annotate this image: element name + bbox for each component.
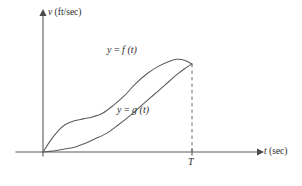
curve-f-label-equals: = [114,44,120,55]
curve-f-label-y: y [107,44,111,55]
curve-g-label-argument: (t) [140,104,149,115]
curve-g-label-equals: = [124,104,130,115]
curve-g-label: y = g (t) [117,105,149,115]
curve-g-label-function: g [132,104,137,115]
curve-f-label: y = f (t) [107,45,137,55]
figure-canvas [0,0,302,186]
curve-f-label-argument: (t) [127,44,136,55]
up-arrow-icon [39,9,46,16]
x-axis-tick-label-T: T [188,157,194,167]
y-axis-variable: v [48,7,52,17]
x-axis-variable: t [264,146,267,156]
y-axis-label: v (ft/sec) [48,8,82,18]
curve-g-label-y: y [117,104,121,115]
velocity-time-figure: v (ft/sec) t (sec) y = f (t) y = g (t) T [0,0,302,186]
curve-f-label-function: f [122,44,125,55]
x-axis-units: (sec) [269,146,287,156]
x-axis-label: t (sec) [264,147,287,157]
y-axis-units: (ft/sec) [55,7,82,17]
right-arrow-icon [257,148,264,155]
